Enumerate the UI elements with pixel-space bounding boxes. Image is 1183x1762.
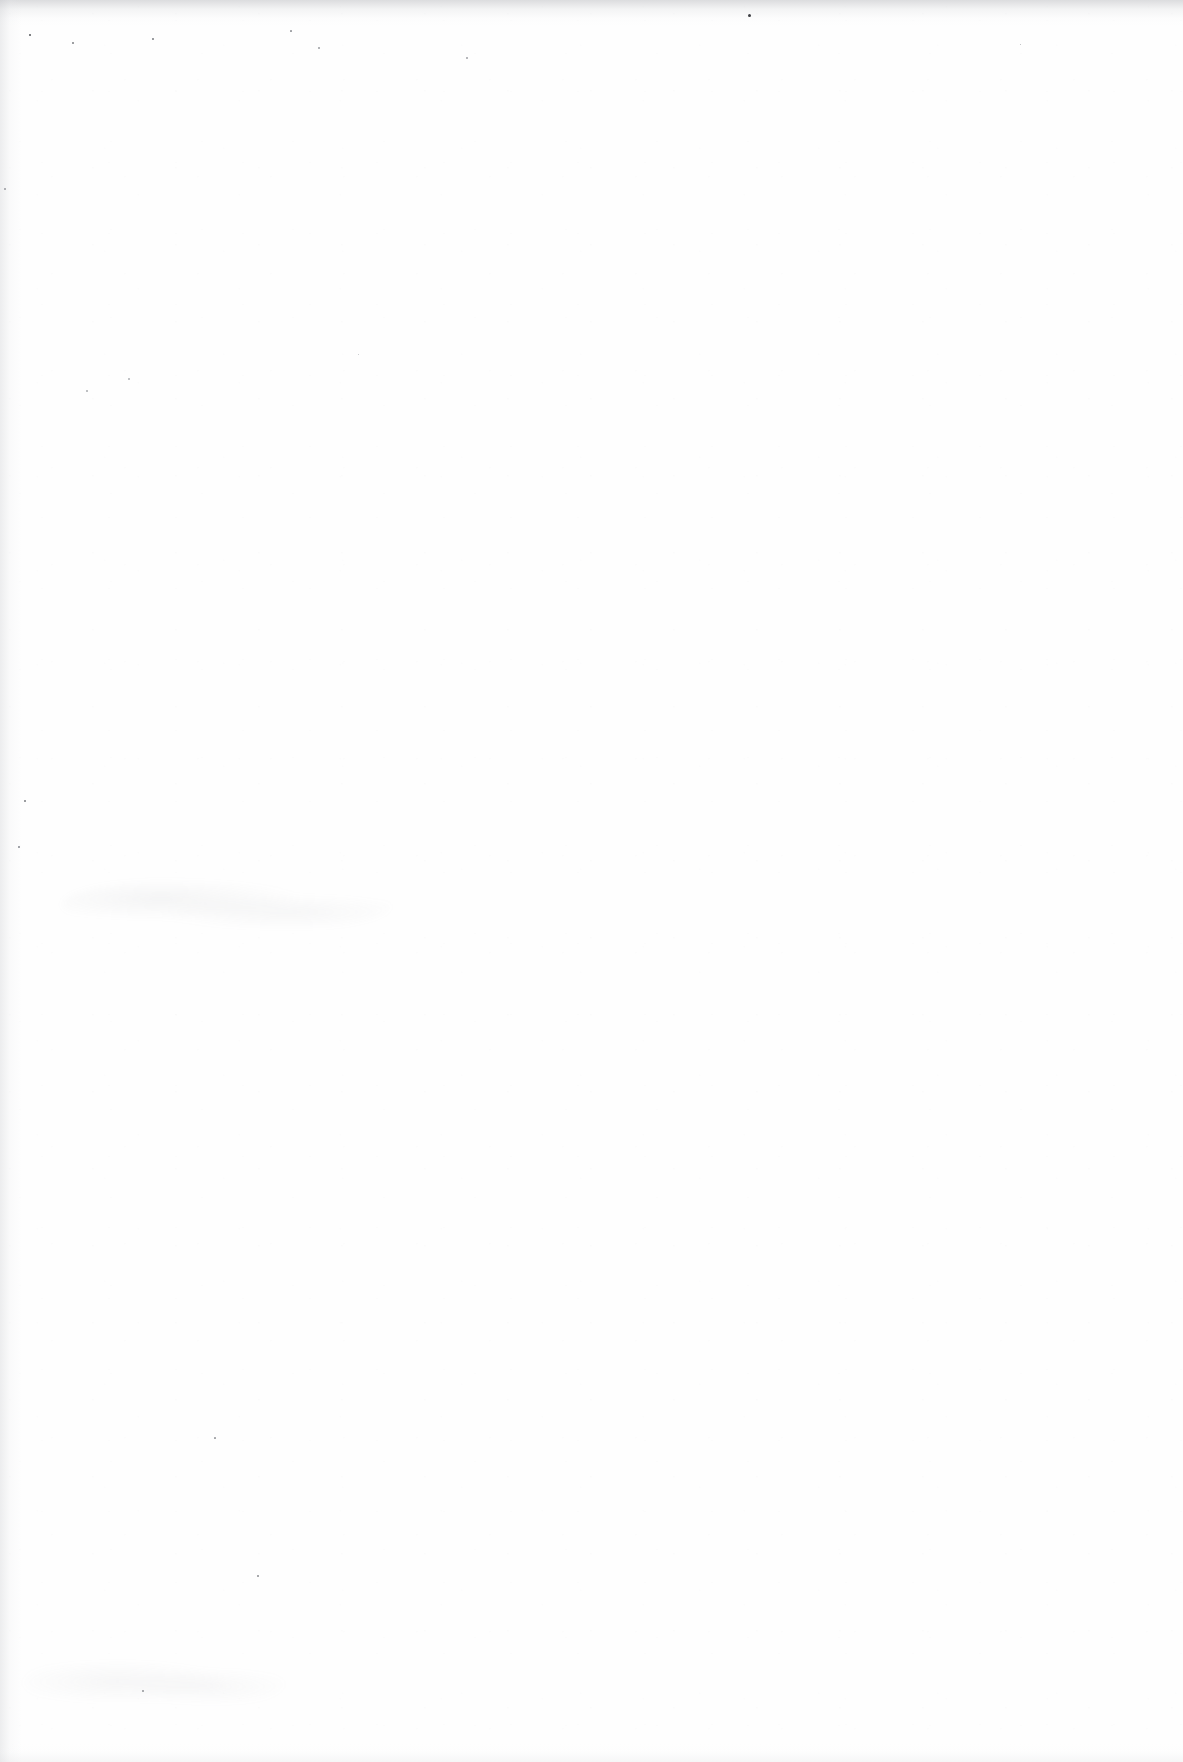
paper-surface (0, 0, 1183, 1762)
scanned-page (0, 0, 1183, 1762)
